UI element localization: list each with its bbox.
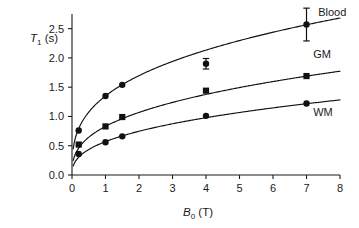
marker-circle-blood: [119, 82, 125, 88]
x-tick-label: 2: [136, 182, 142, 194]
series-label-blood: Blood: [318, 6, 346, 18]
marker-circle-blood: [102, 93, 108, 99]
x-tick-label: 7: [303, 182, 309, 194]
error-bars: [203, 8, 310, 69]
series-label-gm: GM: [313, 48, 331, 60]
marker-square-gm: [102, 123, 108, 129]
marker-circle-wm: [303, 100, 309, 106]
curve-wm: [73, 100, 340, 166]
marker-circle-wm: [203, 113, 209, 119]
marker-square-gm: [203, 88, 209, 94]
marker-circle-blood: [303, 21, 309, 27]
y-tick-label: 0.5: [49, 140, 64, 152]
y-tick-label: 0.0: [49, 169, 64, 181]
marker-circle-wm: [76, 151, 82, 157]
marker-circle-wm: [102, 139, 108, 145]
marker-square-gm: [119, 114, 125, 120]
x-tick-label: 3: [169, 182, 175, 194]
chart-plot: 012345678 0.00.51.01.52.02.5 BloodGMWM B…: [0, 0, 359, 228]
figure-container: 012345678 0.00.51.01.52.02.5 BloodGMWM B…: [0, 0, 359, 228]
y-axis-title: T1 (s): [30, 32, 58, 47]
x-tick-label: 4: [203, 182, 209, 194]
x-axis-title: B0 (T): [183, 206, 213, 221]
x-tick-label: 1: [102, 182, 108, 194]
series-label-wm: WM: [313, 106, 333, 118]
y-tick-label: 2.0: [49, 52, 64, 64]
x-tick-label: 6: [270, 182, 276, 194]
curve-blood: [73, 18, 340, 149]
y-tick-label: 1.5: [49, 81, 64, 93]
marker-circle-blood: [76, 127, 82, 133]
x-tick-label: 5: [236, 182, 242, 194]
x-axis-ticks: 012345678: [69, 175, 343, 194]
marker-square-gm: [303, 73, 309, 79]
y-axis-ticks: 0.00.51.01.52.02.5: [49, 23, 72, 181]
x-tick-label: 0: [69, 182, 75, 194]
marker-circle-blood: [203, 61, 209, 67]
marker-square-gm: [76, 141, 82, 147]
marker-circle-wm: [119, 133, 125, 139]
y-tick-label: 1.0: [49, 110, 64, 122]
x-tick-label: 8: [337, 182, 343, 194]
data-point-markers: [76, 21, 310, 157]
